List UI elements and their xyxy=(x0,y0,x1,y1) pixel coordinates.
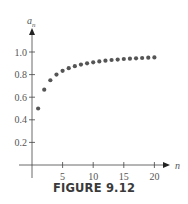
y-tick-label: 0.6 xyxy=(15,92,28,103)
y-tick-label: 0.2 xyxy=(15,137,28,148)
data-point xyxy=(42,88,46,92)
y-axis-label-subscript: n xyxy=(32,21,36,29)
x-axis-arrow xyxy=(163,162,170,168)
y-tick-label: 0.8 xyxy=(15,69,28,80)
data-point xyxy=(36,106,40,110)
y-tick-label: 1.0 xyxy=(15,47,28,58)
data-point xyxy=(152,55,156,59)
data-point xyxy=(128,57,132,61)
data-point xyxy=(122,57,126,61)
data-point xyxy=(146,56,150,60)
data-point xyxy=(103,59,107,63)
data-point xyxy=(54,73,58,77)
data-point xyxy=(85,61,89,65)
data-points xyxy=(36,55,156,110)
data-point xyxy=(67,66,71,70)
data-point xyxy=(48,78,52,82)
data-point xyxy=(61,69,65,73)
data-point xyxy=(73,64,77,68)
data-point xyxy=(79,62,83,66)
sequence-scatter-chart: nan51015200.20.40.60.81.0 xyxy=(0,0,188,204)
data-point xyxy=(91,60,95,64)
data-point xyxy=(109,58,113,62)
data-point xyxy=(116,57,120,61)
data-point xyxy=(140,56,144,60)
axes: nan51015200.20.40.60.81.0 xyxy=(15,15,181,182)
data-point xyxy=(97,59,101,63)
figure-caption: FIGURE 9.12 xyxy=(0,181,188,195)
y-axis-arrow xyxy=(29,28,35,35)
y-tick-label: 0.4 xyxy=(15,114,28,125)
x-axis-label: n xyxy=(175,160,180,171)
data-point xyxy=(134,56,138,60)
y-axis-label: an xyxy=(27,15,36,29)
